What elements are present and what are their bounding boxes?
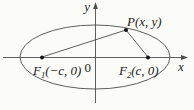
point-p-label: P(x, y): [126, 14, 162, 29]
point-p-name: P: [126, 14, 135, 29]
point-f2-dot: [146, 56, 150, 60]
x-axis-label: x: [177, 59, 184, 74]
point-f1-dot: [40, 56, 44, 60]
focus1-coords: (−c, 0): [45, 63, 81, 78]
figure-background: [0, 0, 194, 110]
origin-label: 0: [85, 60, 92, 75]
ellipse-foci-diagram: y x 0 P(x, y) F1(−c, 0) F2(c, 0): [0, 0, 194, 110]
ellipse-figure: y x 0 P(x, y) F1(−c, 0) F2(c, 0): [0, 0, 194, 110]
y-axis-label: y: [82, 0, 90, 14]
focus2-label: F2(c, 0): [118, 63, 159, 80]
point-p-coords: (x, y): [135, 14, 162, 29]
focus2-coords: (c, 0): [131, 63, 158, 78]
focus1-label: F1(−c, 0): [32, 63, 81, 80]
